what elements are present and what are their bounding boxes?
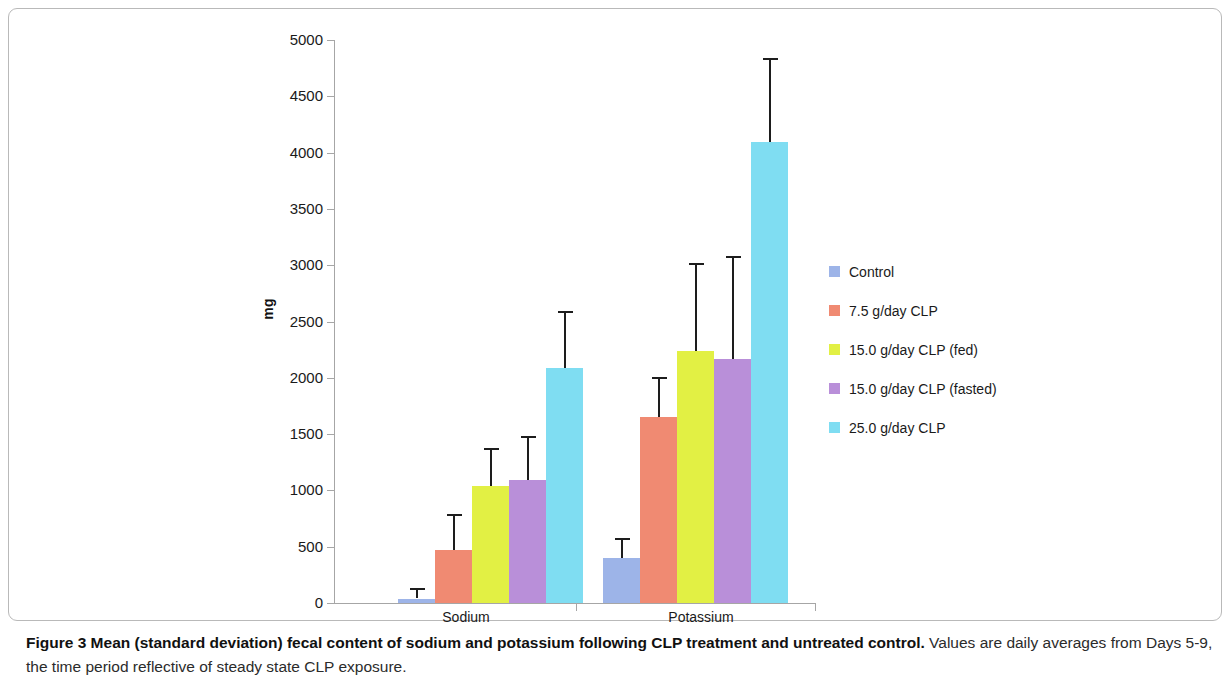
y-tick-label: 3000 [261, 257, 323, 272]
error-bar-cap [689, 263, 704, 265]
y-tick-mark [327, 490, 334, 491]
y-tick-mark [327, 209, 334, 210]
bar [472, 486, 509, 603]
bar [435, 550, 472, 603]
y-tick-label: 0 [261, 595, 323, 610]
error-bar-cap [726, 256, 741, 258]
legend-item[interactable]: Control [829, 252, 1089, 291]
y-tick-label: 3500 [261, 201, 323, 216]
error-bar-cap [763, 58, 778, 60]
y-tick-mark [327, 322, 334, 323]
error-bar-cap [521, 436, 536, 438]
y-tick-mark [327, 96, 334, 97]
error-bar-cap [484, 448, 499, 450]
error-bar-stem [490, 448, 492, 486]
y-tick-label: 5000 [261, 32, 323, 47]
legend-item[interactable]: 15.0 g/day CLP (fasted) [829, 369, 1089, 408]
error-bar-cap [558, 311, 573, 313]
category-separator-tick [576, 603, 577, 611]
bar [677, 351, 714, 603]
caption-bold-text: Figure 3 Mean (standard deviation) fecal… [26, 634, 925, 651]
legend-swatch-icon [829, 422, 840, 433]
bar [546, 368, 583, 603]
plot-area [334, 40, 815, 603]
legend-swatch-icon [829, 383, 840, 394]
error-bar-cap [615, 538, 630, 540]
y-tick-label: 500 [261, 539, 323, 554]
figure-caption: Figure 3 Mean (standard deviation) fecal… [26, 631, 1216, 678]
error-bar-stem [621, 538, 623, 558]
y-tick-mark [327, 153, 334, 154]
error-bar-stem [564, 311, 566, 367]
bar [640, 417, 677, 603]
figure-page: mg 0500100015002000250030003500400045005… [0, 0, 1230, 685]
bar [603, 558, 640, 603]
legend-swatch-icon [829, 344, 840, 355]
y-tick-mark [327, 378, 334, 379]
category-label: Sodium [406, 610, 526, 624]
legend-item[interactable]: 25.0 g/day CLP [829, 408, 1089, 447]
y-tick-mark [327, 40, 334, 41]
y-tick-mark [327, 265, 334, 266]
legend-label: 15.0 g/day CLP (fed) [849, 343, 978, 357]
legend-swatch-icon [829, 305, 840, 316]
x-axis-line [334, 603, 816, 604]
y-tick-label: 2500 [261, 314, 323, 329]
y-axis-tick-labels: 0500100015002000250030003500400045005000 [257, 9, 323, 629]
category-separator-tick [815, 603, 816, 611]
legend-item[interactable]: 15.0 g/day CLP (fed) [829, 330, 1089, 369]
legend-swatch-icon [829, 266, 840, 277]
legend-label: 7.5 g/day CLP [849, 304, 938, 318]
legend-label: 15.0 g/day CLP (fasted) [849, 382, 997, 396]
y-tick-mark [327, 603, 334, 604]
y-tick-label: 4500 [261, 88, 323, 103]
error-bar-stem [732, 256, 734, 358]
bar [751, 142, 788, 603]
y-tick-label: 1500 [261, 426, 323, 441]
category-label: Potassium [641, 610, 761, 624]
bar [714, 359, 751, 603]
error-bar-cap [447, 514, 462, 516]
error-bar-stem [769, 58, 771, 142]
figure-frame: mg 0500100015002000250030003500400045005… [8, 8, 1222, 621]
chart-legend: Control7.5 g/day CLP15.0 g/day CLP (fed)… [829, 252, 1089, 447]
error-bar-stem [453, 514, 455, 550]
error-bar-cap [410, 588, 425, 590]
error-bar-cap [652, 377, 667, 379]
legend-item[interactable]: 7.5 g/day CLP [829, 291, 1089, 330]
bar [509, 480, 546, 603]
error-bar-stem [527, 436, 529, 480]
y-tick-label: 4000 [261, 145, 323, 160]
y-tick-mark [327, 434, 334, 435]
legend-label: 25.0 g/day CLP [849, 421, 946, 435]
legend-label: Control [849, 265, 894, 279]
y-tick-label: 1000 [261, 482, 323, 497]
error-bar-stem [695, 263, 697, 351]
error-bar-stem [658, 377, 660, 418]
bar [398, 599, 435, 604]
y-tick-mark [327, 547, 334, 548]
y-tick-label: 2000 [261, 370, 323, 385]
